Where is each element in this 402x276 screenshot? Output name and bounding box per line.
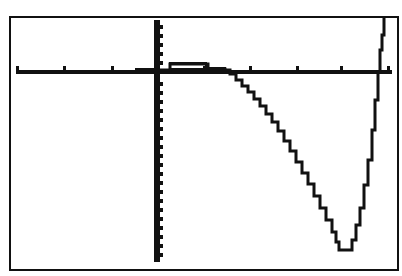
- y-tick: [159, 208, 163, 212]
- function-graph: [0, 0, 402, 276]
- y-tick: [159, 190, 163, 194]
- y-tick: [159, 82, 163, 86]
- y-axis: [154, 20, 163, 262]
- y-tick: [159, 118, 163, 122]
- y-tick: [159, 199, 163, 203]
- y-tick: [159, 52, 163, 56]
- curve-path: [135, 18, 384, 250]
- y-tick: [159, 136, 163, 140]
- y-tick: [159, 172, 163, 176]
- curve-segment: [135, 68, 157, 73]
- y-tick: [159, 100, 163, 104]
- x-tick: [387, 66, 390, 71]
- x-tick: [63, 66, 66, 71]
- y-tick: [159, 154, 163, 158]
- screen-frame: [10, 17, 398, 270]
- function-curve: [135, 18, 384, 250]
- x-tick: [296, 66, 299, 71]
- y-tick: [159, 43, 163, 47]
- y-tick: [159, 34, 163, 38]
- y-tick: [159, 61, 163, 65]
- y-tick: [159, 253, 163, 257]
- y-tick: [159, 145, 163, 149]
- curve-bump: [170, 63, 206, 69]
- x-tick: [249, 66, 252, 71]
- y-tick: [159, 235, 163, 239]
- y-tick: [159, 25, 163, 29]
- y-tick: [159, 181, 163, 185]
- x-tick: [111, 66, 114, 71]
- y-tick: [159, 109, 163, 113]
- y-tick: [159, 91, 163, 95]
- curve-segment: [206, 67, 226, 72]
- y-axis-line: [154, 20, 160, 262]
- x-tick: [16, 66, 19, 71]
- x-tick: [340, 66, 343, 71]
- y-tick: [159, 226, 163, 230]
- graph-screen: [0, 0, 402, 276]
- y-tick: [159, 127, 163, 131]
- y-tick: [159, 163, 163, 167]
- y-tick: [159, 217, 163, 221]
- y-tick: [159, 244, 163, 248]
